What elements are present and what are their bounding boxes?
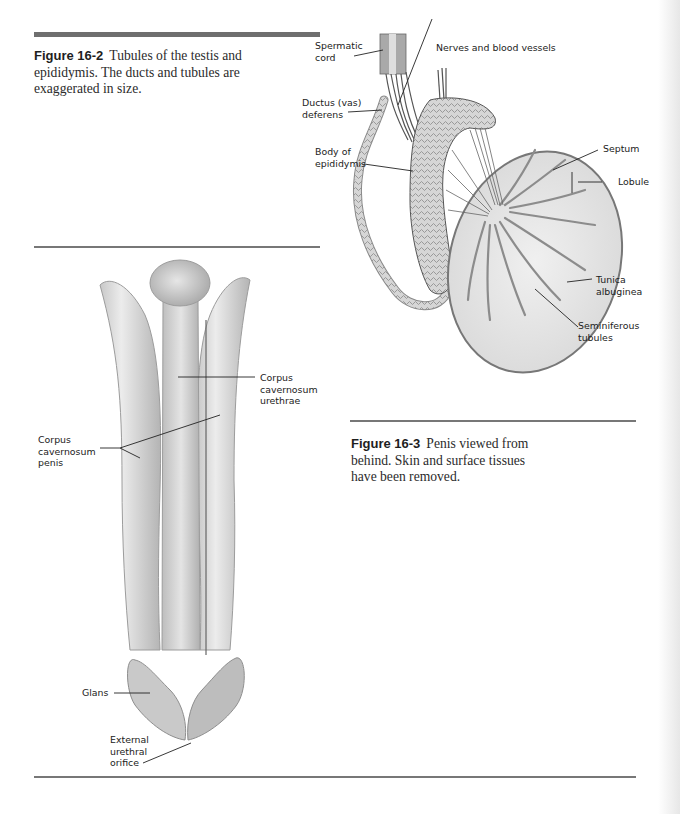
penis-illustration: [100, 260, 255, 763]
label-nerves-blood-vessels: Nerves and blood vessels: [436, 42, 556, 54]
label-body-of-epididymis: Body of epididymis: [315, 146, 366, 169]
label-ductus-deferens: Ductus (vas) deferens: [302, 97, 361, 120]
label-corpus-cavernosum-penis: Corpus cavernosum penis: [38, 434, 96, 469]
label-external-urethral-orifice: External urethral orifice: [110, 734, 149, 769]
label-lobule: Lobule: [618, 176, 649, 188]
label-spermatic-cord: Spermatic cord: [315, 40, 363, 63]
label-tunica-albuginea: Tunica albuginea: [596, 274, 642, 297]
label-glans: Glans: [82, 687, 108, 699]
label-septum: Septum: [603, 143, 639, 155]
label-seminiferous-tubules: Seminiferous tubules: [578, 320, 639, 343]
label-corpus-cavernosum-urethrae: Corpus cavernosum urethrae: [260, 372, 318, 407]
